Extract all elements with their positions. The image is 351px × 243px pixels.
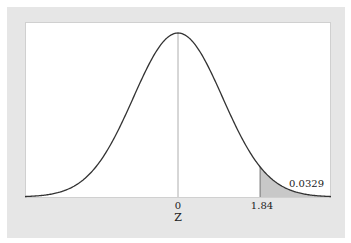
tick-label-1.84: 1.84 <box>251 200 273 211</box>
tick-label-0: 0 <box>175 200 181 211</box>
tail-area-label: 0.0329 <box>289 178 324 189</box>
x-axis-title: Z <box>174 211 182 224</box>
